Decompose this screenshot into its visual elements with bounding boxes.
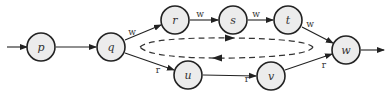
dashed-cycle-lower	[140, 47, 313, 58]
svg-text:p: p	[37, 41, 44, 54]
edge-label-t-w: w	[306, 19, 314, 29]
svg-text:t: t	[286, 14, 291, 27]
svg-text:q: q	[107, 41, 114, 54]
edge-t-w	[302, 27, 333, 43]
edge-label-u-v: r	[245, 74, 250, 84]
node-p: p	[27, 33, 55, 61]
node-q: q	[97, 33, 125, 61]
node-v: v	[257, 62, 285, 90]
edge-label-q-u: r	[156, 65, 161, 75]
svg-text:s: s	[230, 14, 236, 27]
edge-label-q-r: w	[128, 27, 136, 37]
svg-text:w: w	[341, 44, 351, 57]
edge-label-r-s: w	[196, 9, 204, 19]
node-u: u	[174, 61, 202, 89]
edge-label-v-w: r	[322, 60, 327, 70]
node-s: s	[219, 6, 247, 34]
edge-label-s-t: w	[252, 9, 260, 19]
svg-text:u: u	[184, 69, 191, 82]
cycle-arrow-left-icon	[212, 55, 222, 62]
node-w: w	[332, 36, 360, 64]
svg-text:r: r	[172, 14, 178, 27]
state-diagram: w w w w r r r p q r s t u v w	[0, 0, 391, 95]
svg-text:v: v	[268, 70, 275, 83]
node-t: t	[274, 6, 302, 34]
node-r: r	[161, 6, 189, 34]
edge-q-u	[125, 53, 174, 70]
cycle-arrow-right-icon	[225, 35, 235, 42]
